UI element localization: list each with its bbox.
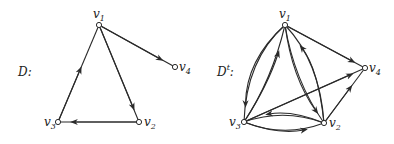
node-label-v2: v2	[144, 115, 156, 131]
edge-v1-v3	[244, 25, 285, 122]
node-label-v4: v4	[369, 61, 381, 77]
node-v3	[55, 119, 60, 124]
graph-dt-label: Dt:	[216, 63, 234, 79]
node-v1	[282, 22, 287, 27]
edge-v1-v4	[99, 25, 175, 67]
node-v2	[321, 120, 326, 125]
node-label-v3: v3	[229, 115, 241, 131]
node-v2	[136, 119, 141, 124]
graph-d-label: D:	[17, 65, 32, 79]
diagram-canvas: D: v1 v2 v3 v4 Dt:	[0, 0, 394, 144]
node-v4	[172, 64, 177, 69]
node-v1	[96, 22, 101, 27]
edge-v1-v4	[285, 25, 365, 68]
node-label-v3: v3	[44, 115, 56, 131]
edge-v1-v2	[99, 25, 139, 122]
graph-dt: Dt:	[216, 7, 381, 132]
node-label-v4: v4	[179, 60, 191, 76]
node-label-v2: v2	[329, 116, 341, 132]
edge-v2-v3	[244, 113, 324, 123]
edge-v1-v2	[285, 25, 324, 123]
node-label-v1: v1	[279, 7, 291, 23]
node-v3	[241, 119, 246, 124]
edge-v3-v1	[244, 25, 285, 122]
edge-v3-v2	[244, 122, 324, 131]
node-label-v1: v1	[93, 7, 105, 23]
edge-v3-v4	[244, 68, 365, 122]
edge-v2-v1	[285, 25, 324, 123]
edge-v2-v4	[324, 68, 365, 123]
edge-v3-v1	[58, 25, 99, 122]
graph-d: D: v1 v2 v3 v4	[17, 7, 191, 131]
node-v4	[362, 65, 367, 70]
